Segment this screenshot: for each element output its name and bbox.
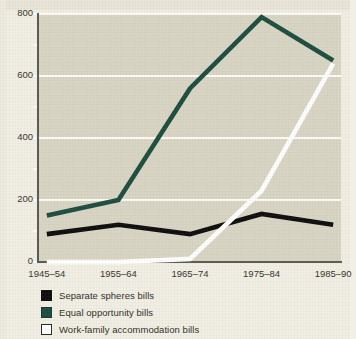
series-line-separate-spheres-bills bbox=[47, 214, 333, 234]
series-line-equal-opportunity-bills bbox=[47, 17, 333, 215]
legend-item-work-family-accommodation-bills: Work-family accommodation bills bbox=[41, 321, 199, 337]
legend-swatch-equal-opportunity-bills bbox=[41, 307, 52, 318]
legend: Separate spheres bills Equal opportunity… bbox=[41, 287, 199, 338]
legend-swatch-work-family-accommodation-bills bbox=[41, 324, 52, 335]
legend-label-separate-spheres-bills: Separate spheres bills bbox=[59, 290, 154, 301]
legend-label-work-family-accommodation-bills: Work-family accommodation bills bbox=[59, 324, 199, 335]
legend-label-equal-opportunity-bills: Equal opportunity bills bbox=[59, 307, 153, 318]
legend-item-separate-spheres-bills: Separate spheres bills bbox=[41, 287, 199, 303]
legend-item-equal-opportunity-bills: Equal opportunity bills bbox=[41, 304, 199, 320]
legend-swatch-separate-spheres-bills bbox=[41, 290, 52, 301]
